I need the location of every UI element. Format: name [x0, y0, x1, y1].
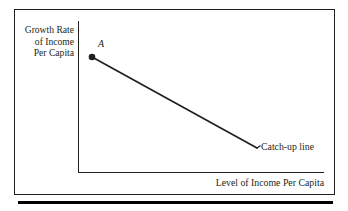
- x-axis-line: [78, 172, 324, 173]
- point-a-label: A: [98, 38, 104, 49]
- y-axis-line: [78, 21, 79, 173]
- y-axis-label-line-3: Per Capita: [8, 47, 74, 59]
- catch-up-line-label: Catch-up line: [261, 141, 314, 153]
- bottom-divider-rule: [18, 201, 333, 204]
- y-axis-label-line-2: of Income: [8, 36, 74, 48]
- x-axis-label: Level of Income Per Capita: [140, 176, 324, 189]
- figure-container: Growth Rate of Income Per Capita Level o…: [0, 0, 348, 211]
- y-axis-label: Growth Rate of Income Per Capita: [8, 24, 74, 59]
- y-axis-label-line-1: Growth Rate: [8, 24, 74, 36]
